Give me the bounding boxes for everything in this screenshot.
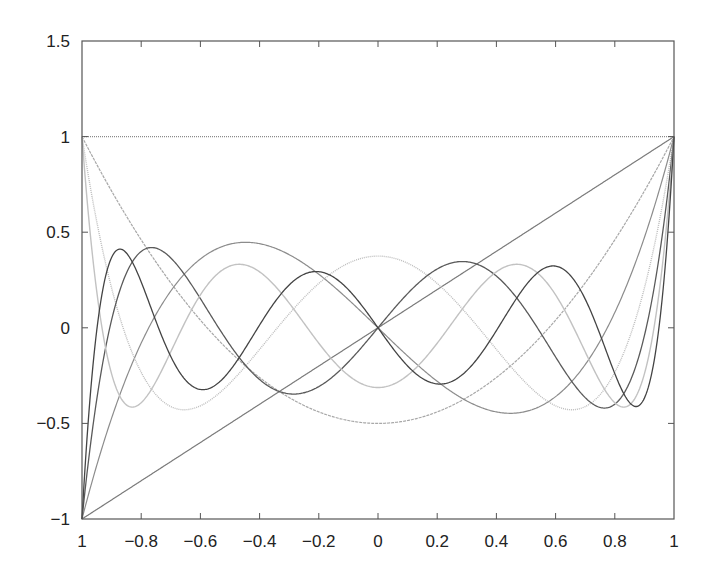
y-axis-tick-labels: −1−0.500.511.5 xyxy=(36,32,70,529)
x-tick-label: 0 xyxy=(373,532,382,551)
x-tick-label: −0.4 xyxy=(243,532,277,551)
y-tick-label: 0 xyxy=(61,319,70,338)
y-tick-label: −0.5 xyxy=(36,414,70,433)
curve-p4 xyxy=(82,137,674,410)
curve-p6 xyxy=(82,137,674,408)
x-tick-label: 0.6 xyxy=(544,532,568,551)
x-axis-tick-labels: 1−0.8−0.6−0.4−0.200.20.40.60.81 xyxy=(77,532,678,551)
x-tick-label: −0.2 xyxy=(302,532,336,551)
y-tick-label: 1 xyxy=(61,128,70,147)
x-tick-label: 1 xyxy=(77,532,86,551)
curve-group xyxy=(82,137,674,519)
x-tick-label: 0.4 xyxy=(485,532,509,551)
x-tick-label: 0.2 xyxy=(425,532,449,551)
y-tick-label: 0.5 xyxy=(46,223,70,242)
x-tick-label: 0.8 xyxy=(603,532,627,551)
y-tick-label: 1.5 xyxy=(46,32,70,51)
tick-marks xyxy=(82,41,674,519)
x-tick-label: −0.6 xyxy=(184,532,218,551)
x-tick-label: 1 xyxy=(669,532,678,551)
curve-p2 xyxy=(82,137,674,424)
x-tick-label: −0.8 xyxy=(124,532,158,551)
y-tick-label: −1 xyxy=(51,510,70,529)
legendre-polynomials-chart: 1−0.8−0.6−0.4−0.200.20.40.60.81 −1−0.500… xyxy=(0,0,713,584)
plot-frame xyxy=(82,41,674,519)
